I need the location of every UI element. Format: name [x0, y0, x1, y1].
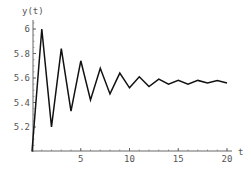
x-tick-label: 20 — [222, 154, 233, 164]
y-tick-label: 6 — [25, 24, 30, 34]
x-tick-label: 15 — [173, 154, 184, 164]
y-tick-label: 5.8 — [14, 49, 30, 59]
line-chart: 5.25.45.65.865101520 y(t) t — [0, 0, 251, 170]
axis-ticks: 5.25.45.65.865101520 — [14, 23, 233, 164]
y-tick-label: 5.4 — [14, 98, 30, 108]
x-tick-label: 5 — [78, 154, 83, 164]
series-line-y-of-t — [32, 29, 227, 152]
y-tick-label: 5.6 — [14, 73, 30, 83]
x-tick-label: 10 — [124, 154, 135, 164]
x-axis-label: t — [238, 147, 243, 157]
y-axis-label: y(t) — [22, 6, 44, 16]
y-tick-label: 5.2 — [14, 122, 30, 132]
